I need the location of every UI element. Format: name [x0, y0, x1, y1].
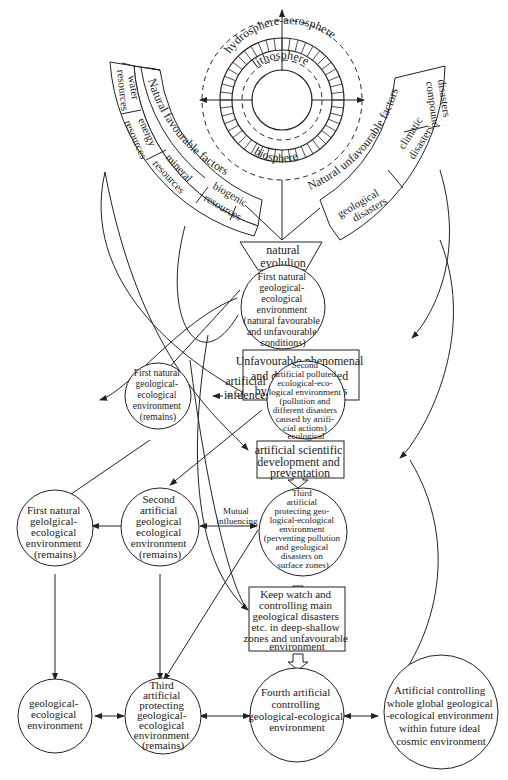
third-protecting-environment-node: Third artificial protecting geo- logical… — [259, 488, 347, 576]
cosmic-environment-node: Artificial controlling whole global geol… — [384, 655, 498, 769]
mutual-influencing-label: Mutual influencing — [217, 506, 258, 526]
fourth-controlling-environment-node: Fourth artificial controlling geological… — [248, 668, 345, 762]
svg-text:Artificial controlling w: Artificial controlling whole global geol… — [386, 684, 496, 747]
biosphere-label: biosphere — [252, 144, 299, 165]
diagram-canvas: hydrosphere-aerosphere lithosphere biosp… — [0, 0, 508, 780]
artificial-influences-label: artificial infuences — [224, 374, 270, 402]
geological-ecological-environment-node: geological- ecological environment — [18, 679, 92, 753]
third-protecting-remains-node: Third artificial protecting geological- … — [125, 678, 201, 754]
svg-text:First natural geological: First natural geological- ecological env… — [133, 368, 183, 423]
svg-text:Mutual influencing: Mutual influencing — [217, 506, 258, 526]
first-natural-remains-node-upper: First natural geological- ecological env… — [125, 363, 191, 429]
first-natural-environment-node: First natural geological- ecological env… — [241, 265, 325, 349]
scientific-development-box: artificial scientific development and pr… — [255, 441, 346, 480]
svg-text:artificial infuences: artificial infuences — [224, 374, 270, 402]
keep-watch-box: Keep watch and controlling main geologic… — [243, 587, 350, 652]
first-natural-remains-node-lower: First natural gelolgical- ecological env… — [17, 490, 93, 566]
earth-spheres: hydrosphere-aerosphere lithosphere biosp… — [200, 10, 364, 180]
second-artificial-remains-node: Second artificial geological ecological … — [121, 488, 199, 566]
svg-text:First natural gelolgical: First natural gelolgical- ecological env… — [26, 504, 84, 561]
second-polluted-environment-node: Second artificial polluted ecological-ec… — [267, 360, 345, 441]
svg-text:geological- ecological: geological- ecological environment — [27, 697, 83, 731]
